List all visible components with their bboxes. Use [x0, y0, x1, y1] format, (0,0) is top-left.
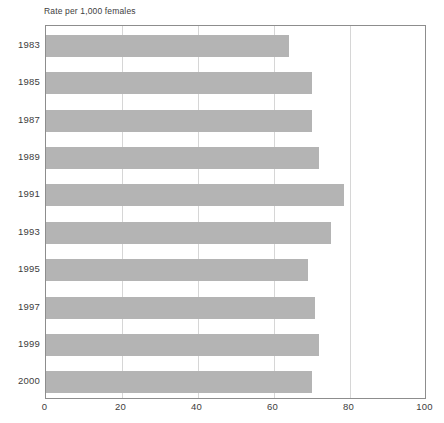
- y-axis-tick-label: 1997: [2, 301, 40, 312]
- x-axis-tick-label: 40: [191, 401, 202, 412]
- y-axis-tick-label: 1991: [2, 188, 40, 199]
- bar: [46, 222, 331, 244]
- x-axis-tick-label: 100: [416, 401, 432, 412]
- y-axis-tick-label: 1983: [2, 39, 40, 50]
- axis-note: Rate per 1,000 females: [44, 6, 136, 16]
- bar-chart: Rate per 1,000 females 19831985198719891…: [0, 0, 444, 423]
- bar: [46, 297, 316, 319]
- y-axis-tick-label: 1987: [2, 114, 40, 125]
- x-axis-tick-label: 60: [267, 401, 278, 412]
- bar: [46, 72, 312, 94]
- plot-area: [45, 25, 426, 399]
- bar: [46, 184, 344, 206]
- bar: [46, 371, 312, 393]
- bar: [46, 110, 312, 132]
- y-axis-tick-label: 1993: [2, 226, 40, 237]
- gridline: [350, 26, 351, 398]
- y-axis-tick-labels: 1983198519871989199119931995199719992000: [0, 25, 40, 399]
- bar: [46, 35, 289, 57]
- x-axis-tick-labels: 020406080100: [0, 401, 444, 421]
- x-axis-tick-label: 0: [42, 401, 47, 412]
- bar: [46, 147, 320, 169]
- bar: [46, 259, 308, 281]
- bar: [46, 334, 320, 356]
- y-axis-tick-label: 1985: [2, 76, 40, 87]
- y-axis-tick-label: 1995: [2, 263, 40, 274]
- y-axis-tick-label: 1989: [2, 151, 40, 162]
- x-axis-tick-label: 20: [115, 401, 126, 412]
- x-axis-tick-label: 80: [343, 401, 354, 412]
- y-axis-tick-label: 2000: [2, 375, 40, 386]
- y-axis-tick-label: 1999: [2, 338, 40, 349]
